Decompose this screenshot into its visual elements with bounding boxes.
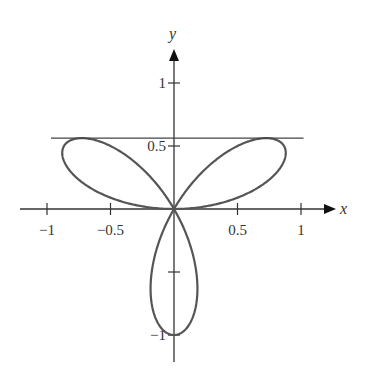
y-axis-label: y	[167, 25, 177, 43]
y-axis-arrow-icon	[169, 49, 179, 61]
x-tick-label: −1	[39, 222, 55, 238]
x-tick-label: 1	[297, 222, 305, 238]
y-tick-label: 1	[159, 75, 167, 91]
polar-rose-plot: x y −1−0.50.5110.5−1	[0, 0, 368, 384]
x-axis-label: x	[339, 200, 347, 217]
x-tick-label: −0.5	[97, 222, 124, 238]
plot-series	[51, 138, 304, 335]
y-tick-label: 0.5	[147, 138, 166, 154]
x-axis-arrow-icon	[324, 204, 336, 214]
x-tick-label: 0.5	[228, 222, 247, 238]
